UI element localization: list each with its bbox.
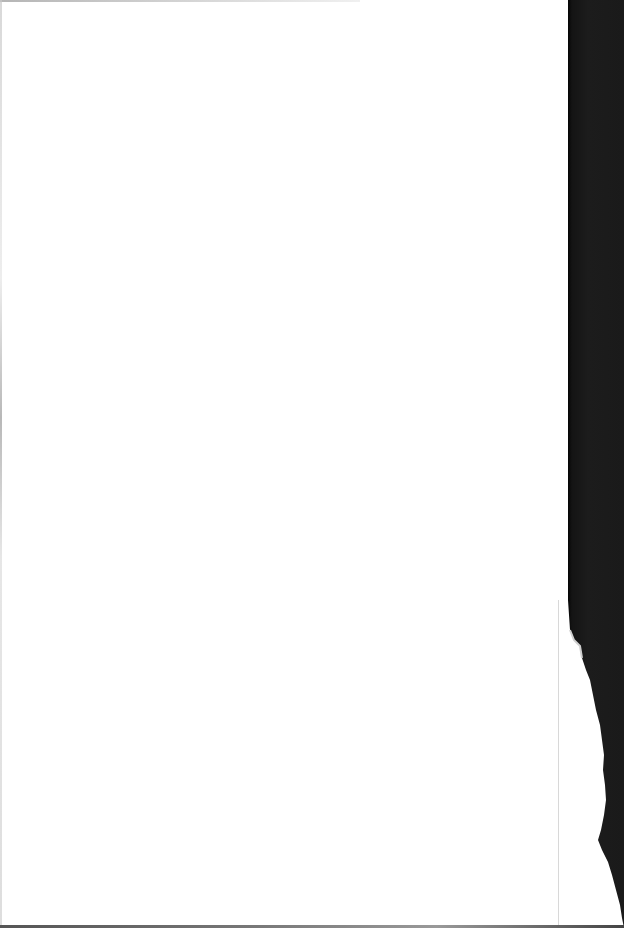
torn-paper-fragment [560,600,624,928]
torn-edge-shape [560,600,624,928]
page-top-edge [0,0,360,2]
blank-paper-page [0,0,568,928]
scanned-document [0,0,624,928]
page-left-edge [0,0,2,928]
page-fold-line [558,600,559,928]
